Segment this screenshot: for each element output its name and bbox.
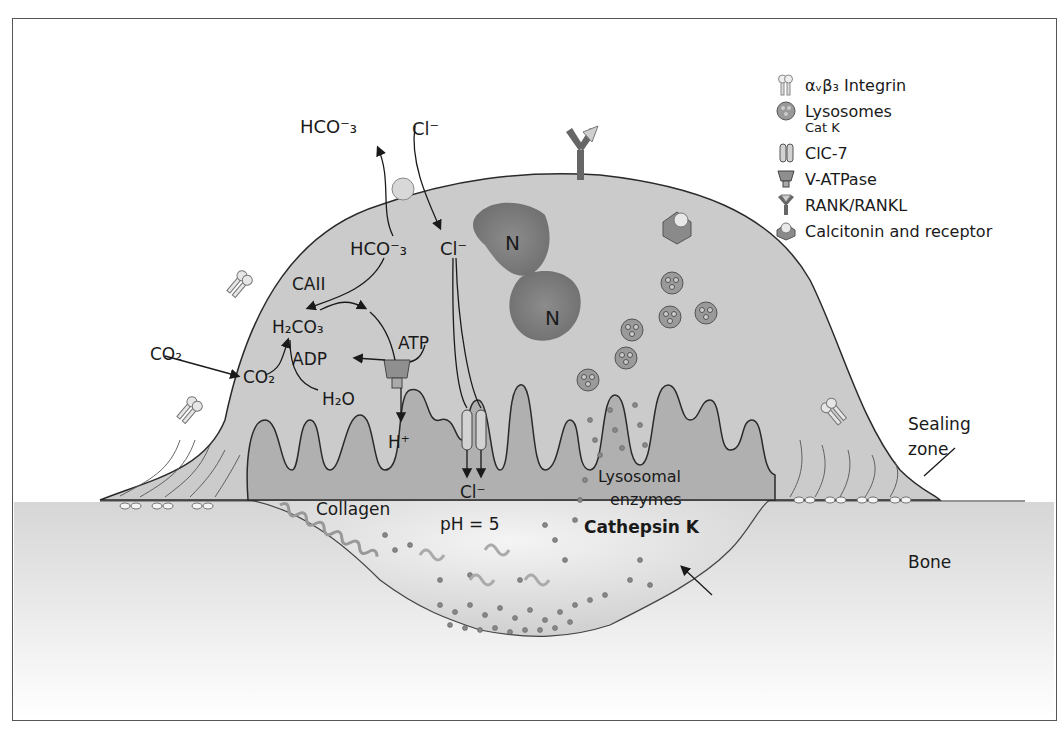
legend-item-v-atpase: V-ATPase <box>775 166 1055 192</box>
svg-text:zone: zone <box>908 439 949 459</box>
svg-text:Lysosomal: Lysosomal <box>598 467 681 486</box>
legend-item-rank-rankl: RANK/RANKL <box>775 192 1055 218</box>
legend-item-clc7: ClC-7 <box>775 140 1055 166</box>
legend-label: ClC-7 <box>805 144 848 163</box>
svg-text:HCO⁻₃: HCO⁻₃ <box>300 116 357 137</box>
legend-label: V-ATPase <box>805 170 877 189</box>
clc7-channel-icon <box>775 142 797 164</box>
svg-text:CO₂: CO₂ <box>150 344 182 364</box>
svg-text:Cl⁻: Cl⁻ <box>460 482 486 502</box>
svg-text:N: N <box>545 306 560 330</box>
legend-item-integrin: αᵥβ₃ Integrin <box>775 72 1055 98</box>
calcitonin-receptor-icon <box>775 220 797 242</box>
svg-text:Sealing: Sealing <box>908 414 971 434</box>
legend: αᵥβ₃ Integrin Lysosomes Cat K ClC-7 V-AT… <box>775 72 1055 244</box>
svg-text:HCO⁻₃: HCO⁻₃ <box>350 238 407 259</box>
legend-label: RANK/RANKL <box>805 196 907 215</box>
svg-text:H⁺: H⁺ <box>388 432 410 452</box>
svg-text:Bone: Bone <box>908 552 951 572</box>
rank-rankl-icon <box>775 194 797 216</box>
svg-text:ATP: ATP <box>398 333 429 353</box>
svg-text:Cl⁻: Cl⁻ <box>440 238 467 259</box>
svg-text:CO₂: CO₂ <box>243 367 275 387</box>
rank-rankl-icon <box>566 126 598 180</box>
legend-label: Calcitonin and receptor <box>805 222 992 241</box>
legend-label: Lysosomes <box>805 102 892 121</box>
svg-text:ADP: ADP <box>292 349 327 369</box>
anion-exchanger-icon <box>392 178 414 200</box>
legend-label: αᵥβ₃ Integrin <box>805 76 906 95</box>
svg-text:N: N <box>505 231 520 255</box>
legend-sublabel-cat-k: Cat K <box>805 120 1055 140</box>
svg-text:pH = 5: pH = 5 <box>440 514 499 534</box>
svg-text:H₂CO₃: H₂CO₃ <box>272 317 324 337</box>
v-atpase-icon <box>775 168 797 190</box>
svg-text:Cl⁻: Cl⁻ <box>412 118 439 139</box>
integrin-icon <box>775 74 797 96</box>
legend-item-calcitonin: Calcitonin and receptor <box>775 218 1055 244</box>
svg-text:enzymes: enzymes <box>610 490 682 509</box>
svg-text:Cathepsin K: Cathepsin K <box>584 517 700 537</box>
svg-text:Collagen: Collagen <box>316 499 390 519</box>
svg-text:H₂O: H₂O <box>322 389 355 409</box>
svg-text:CAII: CAII <box>292 274 326 294</box>
lysosome-icon <box>775 100 797 122</box>
